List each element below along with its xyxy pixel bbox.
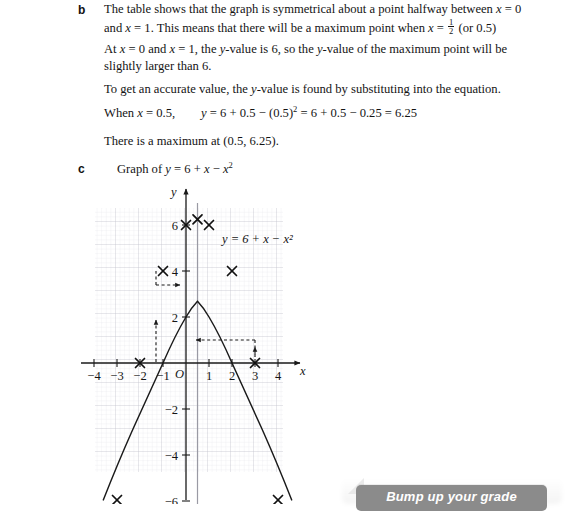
paragraph-accurate-value: To get an accurate value, the y-value is… (104, 81, 562, 98)
paragraph-yvalue: At x = 0 and x = 1, the y-value is 6, so… (104, 41, 562, 74)
para1-eq3: = (434, 21, 447, 35)
heading-eq: = 6 + (171, 162, 204, 176)
origin-label: O (175, 367, 184, 381)
para2-seg4: slightly larger than 6. (104, 59, 212, 73)
x-tick-label: 1 (206, 369, 212, 383)
para2-eq1: = 0 and (125, 42, 169, 56)
heading-power: 2 (229, 160, 233, 170)
para2-eq2: = 1, the (175, 42, 220, 56)
y-tick-label: −6 (165, 495, 178, 504)
paragraph-conclusion: There is a maximum at (0.5, 6.25). (104, 133, 562, 150)
para3-seg1: To get an accurate value, the (104, 82, 251, 96)
para1-seg3: (or 0.5) (455, 21, 496, 35)
fraction-numerator: 1 (448, 18, 454, 27)
x-axis-label: x (299, 364, 306, 378)
para4-eq4: = 6 + 0.5 (297, 106, 349, 120)
y-tick-label: 4 (172, 265, 179, 279)
para5-text: There is a maximum at (0.5, 6.25). (104, 134, 279, 148)
bump-up-your-grade-label: Bump up your grade (356, 489, 547, 504)
part-b-label: b (78, 3, 85, 17)
x-tick-label: −1 (156, 369, 169, 383)
x-tick-label: −4 (87, 369, 101, 383)
para4-eq3: (0.5) (266, 106, 293, 120)
part-c-label: c (78, 162, 85, 176)
y-axis-label: y (169, 185, 177, 199)
bump-up-your-grade-banner[interactable]: Bump up your grade (356, 485, 547, 511)
x-tick-label: 2 (229, 369, 235, 383)
para2-seg1: At (104, 42, 120, 56)
para2-seg3: -value of the maximum point will be (322, 42, 507, 56)
curve-equation-label: y = 6 + x − x² (220, 232, 293, 246)
x-tick-label: 4 (275, 369, 282, 383)
para1-seg1: The table shows that the graph is symmet… (104, 2, 496, 16)
y-tick-label: −2 (165, 403, 178, 417)
fraction-denominator: 2 (448, 26, 454, 36)
para3-seg2: -value is found by substituting into the… (257, 82, 501, 96)
x-tick-label: 3 (252, 369, 258, 383)
x-tick-label: −2 (133, 369, 146, 383)
para4-eq1: = 0.5, (143, 106, 175, 120)
y-tick-label: 2 (172, 311, 178, 325)
fraction-one-half: 12 (448, 18, 454, 36)
para2-seg2: -value is 6, so the (225, 42, 317, 56)
heading-minus: − (210, 162, 223, 176)
para4-minus-1: − (259, 106, 266, 120)
paragraph-substitution: When x = 0.5,y = 6 + 0.5 − (0.5)2 = 6 + … (104, 105, 562, 122)
y-tick-label: −4 (165, 449, 179, 463)
graph-canvas: x y O −4 −3 −2 −1 1 2 3 4 6 4 2 −2 −4 −6… (0, 175, 330, 504)
para1-seg2: and (104, 21, 125, 35)
point-marker (113, 496, 122, 505)
parabola-figure: x y O −4 −3 −2 −1 1 2 3 4 6 4 2 −2 −4 −6… (0, 175, 330, 504)
para1-eq1: = 0 (502, 2, 522, 16)
para1-eq2: = 1. This means that there will be a max… (131, 21, 428, 35)
y-tick-label: 6 (172, 219, 178, 233)
point-marker (274, 496, 283, 505)
paragraph-symmetry: The table shows that the graph is symmet… (104, 1, 562, 36)
x-tick-label: −3 (110, 369, 123, 383)
para4-seg1: When (104, 106, 137, 120)
heading-seg1: Graph of (117, 162, 165, 176)
para4-eq5: 0.25 = 6.25 (356, 106, 417, 120)
para4-eq2: = 6 + 0.5 (207, 106, 259, 120)
